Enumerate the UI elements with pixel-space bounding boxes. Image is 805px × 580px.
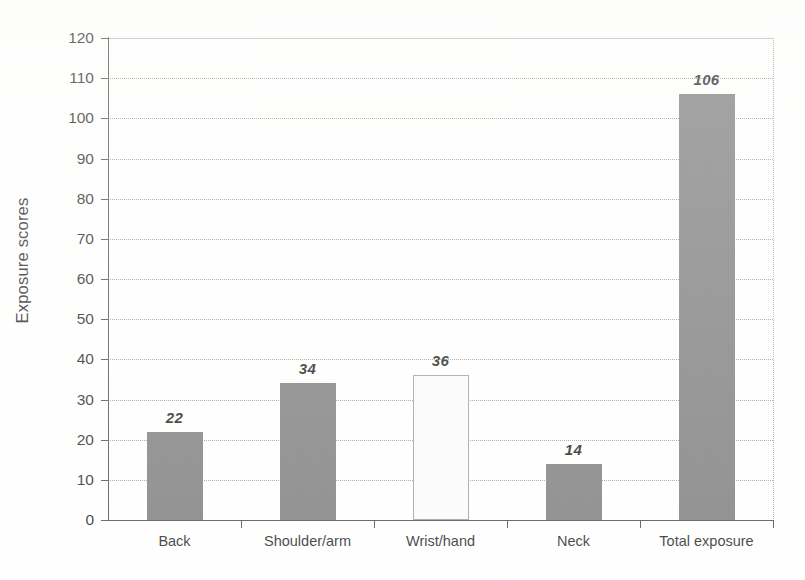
y-tick-label-100: 100 (50, 111, 94, 127)
y-tick-70 (101, 239, 108, 240)
gridline-100 (108, 118, 773, 119)
gridline-110 (108, 78, 773, 79)
gridline-120 (108, 38, 773, 39)
y-tick-50 (101, 319, 108, 320)
y-tick-label-70: 70 (50, 231, 94, 247)
y-tick-label-10: 10 (50, 472, 94, 488)
gridline-90 (108, 159, 773, 160)
y-tick-label-40: 40 (50, 352, 94, 368)
y-tick-label-60: 60 (50, 271, 94, 287)
gridline-70 (108, 239, 773, 240)
plot-right-border (773, 38, 774, 521)
x-tick-boundary-4 (640, 520, 641, 528)
gridline-80 (108, 199, 773, 200)
bar-wrist-hand (413, 375, 469, 520)
y-tick-80 (101, 199, 108, 200)
bar-value-back: 22 (166, 410, 183, 425)
y-tick-10 (101, 480, 108, 481)
y-tick-label-90: 90 (50, 151, 94, 167)
bar-back (147, 432, 203, 520)
y-axis-title: Exposure scores (0, 0, 46, 520)
y-tick-120 (101, 38, 108, 39)
x-axis-line (108, 520, 774, 521)
x-tick-boundary-3 (507, 520, 508, 528)
y-tick-label-120: 120 (50, 30, 94, 46)
x-tick-boundary-1 (241, 520, 242, 528)
y-tick-30 (101, 400, 108, 401)
y-axis-title-label: Exposure scores (14, 197, 33, 323)
y-tick-0 (101, 520, 108, 521)
y-tick-label-0: 0 (50, 512, 94, 528)
y-tick-label-50: 50 (50, 311, 94, 327)
y-tick-label-20: 20 (50, 432, 94, 448)
x-axis-label-wrist-hand: Wrist/hand (406, 534, 475, 550)
y-tick-90 (101, 159, 108, 160)
bar-neck (546, 464, 602, 520)
y-tick-110 (101, 78, 108, 79)
y-tick-40 (101, 359, 108, 360)
y-tick-label-80: 80 (50, 191, 94, 207)
y-axis-line (108, 37, 109, 521)
gridline-50 (108, 319, 773, 320)
bar-value-shoulder-arm: 34 (299, 361, 316, 376)
x-tick-boundary-2 (374, 520, 375, 528)
bar-chart-figure: Exposure scores 010203040506070809010011… (0, 0, 805, 580)
bar-value-neck: 14 (565, 442, 582, 457)
x-axis-label-total-exposure: Total exposure (659, 534, 753, 550)
x-tick-boundary-5 (773, 520, 774, 528)
bar-value-total-exposure: 106 (694, 72, 720, 87)
y-tick-20 (101, 440, 108, 441)
y-tick-100 (101, 118, 108, 119)
gridline-60 (108, 279, 773, 280)
bar-value-wrist-hand: 36 (432, 353, 449, 368)
x-axis-label-shoulder-arm: Shoulder/arm (264, 534, 351, 550)
y-tick-label-110: 110 (50, 70, 94, 86)
x-axis-label-neck: Neck (557, 534, 590, 550)
x-axis-label-back: Back (158, 534, 190, 550)
bar-total-exposure (679, 94, 735, 520)
bar-shoulder-arm (280, 383, 336, 520)
y-tick-60 (101, 279, 108, 280)
y-tick-label-30: 30 (50, 392, 94, 408)
